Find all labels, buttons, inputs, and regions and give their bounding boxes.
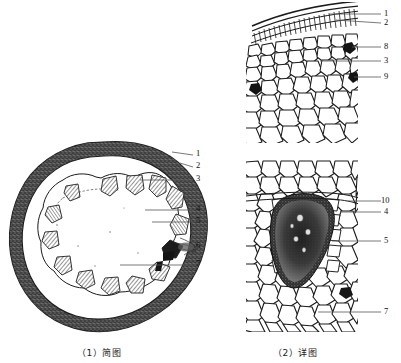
callout-schematic-6: 6 — [196, 241, 200, 250]
caption-detail: （2）详图 — [273, 346, 317, 359]
callout-detail-upper-9: 9 — [384, 72, 388, 81]
callout-schematic-2: 2 — [196, 161, 200, 170]
callout-schematic-4: 4 — [196, 204, 200, 213]
callout-schematic-1: 1 — [196, 149, 200, 158]
figure-root: 1 2 3 4 5 6 7 1 2 8 3 9 10 4 5 7 （1）简图 （… — [0, 0, 401, 363]
callout-detail-upper-2: 2 — [384, 18, 388, 27]
detail-upper-panel — [240, 1, 360, 146]
callout-detail-lower-4: 4 — [384, 207, 388, 216]
callout-schematic-5: 5 — [196, 216, 200, 225]
detail-lower-panel — [239, 160, 359, 332]
callout-schematic-3: 3 — [196, 174, 200, 183]
caption-schematic: （1）简图 — [77, 346, 121, 359]
callout-detail-lower-5: 5 — [384, 236, 388, 245]
callout-detail-lower-10: 10 — [381, 196, 390, 205]
callout-schematic-7: 7 — [196, 259, 200, 268]
callout-detail-upper-3: 3 — [384, 56, 388, 65]
illustration-artwork — [0, 0, 401, 363]
callout-detail-lower-7: 7 — [384, 307, 388, 316]
callout-detail-upper-8: 8 — [384, 42, 388, 51]
